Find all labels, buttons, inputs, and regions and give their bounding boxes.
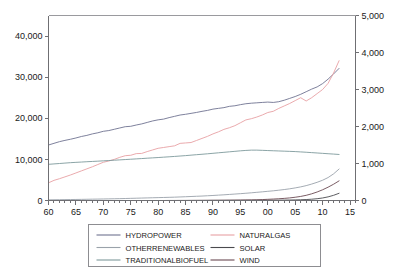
series-line-naturalgas xyxy=(49,61,340,183)
left-axis-tick-label: 0 xyxy=(37,196,42,206)
right-axis-tick-label: 3,000 xyxy=(362,85,385,95)
right-axis-tick-label: 2,000 xyxy=(362,122,385,132)
series-line-wind xyxy=(49,181,340,201)
right-axis-tick-label: 1,000 xyxy=(362,159,385,169)
legend-label-naturalgas: NATURALGAS xyxy=(240,231,291,240)
left-axis-tick-label: 40,000 xyxy=(15,31,43,41)
chart-legend: HYDROPOWEROTHERRENEWABLESTRADITIONALBIOF… xyxy=(89,225,321,267)
x-axis-tick-label: 10 xyxy=(318,207,328,217)
left-axis: 010,00020,00030,00040,000 xyxy=(15,16,49,206)
series-line-traditionalbiofuel xyxy=(49,150,340,164)
legend-label-otherrenewables: OTHERRENEWABLES xyxy=(126,244,205,253)
x-axis-tick-label: 05 xyxy=(290,207,300,217)
x-axis-tick-label: 95 xyxy=(235,207,245,217)
x-axis-tick-label: 60 xyxy=(43,207,53,217)
legend-label-wind: WIND xyxy=(240,256,261,265)
right-axis-tick-label: 5,000 xyxy=(362,11,385,21)
left-axis-tick-label: 30,000 xyxy=(15,72,43,82)
x-axis-tick-label: 90 xyxy=(208,207,218,217)
x-axis-tick-label: 85 xyxy=(181,207,191,217)
chart-container: 010,00020,00030,00040,000 01,0002,0003,0… xyxy=(0,0,404,278)
series-group xyxy=(49,61,340,201)
x-axis-tick-label: 75 xyxy=(126,207,136,217)
x-axis-tick-label: 65 xyxy=(71,207,81,217)
right-axis-tick-label: 0 xyxy=(362,196,367,206)
series-line-otherrenewables xyxy=(49,169,340,200)
legend-label-traditionalbiofuel: TRADITIONALBIOFUEL xyxy=(126,256,209,265)
legend-label-hydropower: HYDROPOWER xyxy=(126,231,183,240)
x-axis-tick-label: 15 xyxy=(345,207,355,217)
line-chart: 010,00020,00030,00040,000 01,0002,0003,0… xyxy=(0,0,404,278)
right-axis: 01,0002,0003,0004,0005,000 xyxy=(356,11,385,206)
x-axis: 606570758085909500051015 xyxy=(43,201,355,217)
left-axis-tick-label: 20,000 xyxy=(15,113,43,123)
series-line-hydropower xyxy=(49,68,340,145)
legend-label-solar: SOLAR xyxy=(240,244,266,253)
x-axis-tick-label: 80 xyxy=(153,207,163,217)
x-axis-tick-label: 70 xyxy=(98,207,108,217)
right-axis-tick-label: 4,000 xyxy=(362,48,385,58)
left-axis-tick-label: 10,000 xyxy=(15,155,43,165)
x-axis-tick-label: 00 xyxy=(263,207,273,217)
